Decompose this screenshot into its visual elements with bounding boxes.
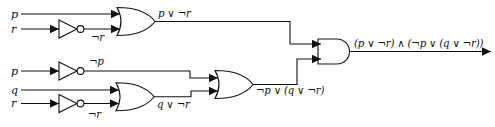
not-gate-p xyxy=(59,62,77,80)
wire-label-not-p: ¬p xyxy=(89,56,104,67)
or-gate-2 xyxy=(116,83,154,111)
circuit-svg: p r p q r ¬r p ∨ ¬r ¬p ¬r q ∨ ¬r ¬p ∨ (q… xyxy=(0,0,495,127)
not-bubble-p xyxy=(77,68,84,75)
not-bubble-r-top xyxy=(77,26,84,33)
wire-not-p-to-or3 xyxy=(84,71,218,78)
wire-label-and-out: (p ∨ ¬r) ∧ (¬p ∨ (q ∨ ¬r)) xyxy=(354,38,484,49)
wire-or1-to-and xyxy=(155,22,321,45)
wire-label-not-r-top: ¬r xyxy=(91,32,105,43)
input-label-r-bottom: r xyxy=(11,97,17,110)
wire-label-or3-out: ¬p ∨ (q ∨ ¬r) xyxy=(256,85,324,96)
not-gate-r-top xyxy=(59,20,77,38)
not-bubble-r-bottom xyxy=(77,100,84,107)
not-gate-r-bottom xyxy=(59,95,77,113)
and-gate xyxy=(318,39,350,64)
input-label-p-top: p xyxy=(11,8,18,21)
circuit-diagram: p r p q r ¬r p ∨ ¬r ¬p ¬r q ∨ ¬r ¬p ∨ (q… xyxy=(0,0,495,127)
input-label-q: q xyxy=(11,84,18,97)
wire-or2-to-or3 xyxy=(154,91,218,97)
or-gate-3 xyxy=(215,71,253,99)
wire-or3-to-and xyxy=(253,59,321,85)
wire-label-or2-out: q ∨ ¬r xyxy=(157,99,191,110)
or-gate-1 xyxy=(117,8,155,36)
wire-label-or1-out: p ∨ ¬r xyxy=(158,8,192,19)
input-label-r-top: r xyxy=(11,23,17,36)
wire-label-not-r-bottom: ¬r xyxy=(88,109,102,120)
input-label-p-bottom: p xyxy=(11,65,18,78)
